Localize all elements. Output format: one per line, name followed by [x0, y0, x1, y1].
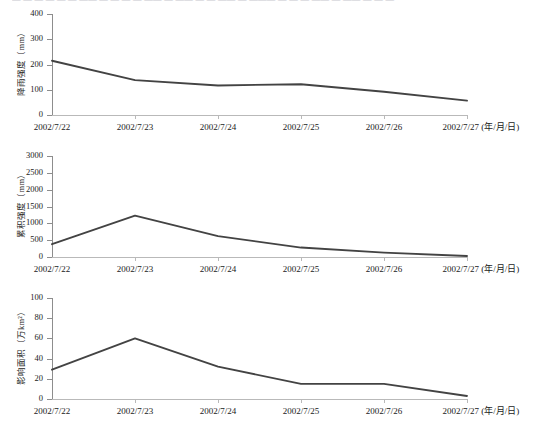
- y-axis-tick-label: 2500: [26, 167, 43, 178]
- y-axis-tick-label: 0: [39, 251, 43, 262]
- series-line: [52, 298, 467, 399]
- y-axis-title: 降雨强度（mm）: [13, 8, 27, 116]
- y-axis-tick: 2500: [47, 173, 52, 174]
- x-axis-tick: [135, 115, 136, 119]
- y-axis-tick: 1000: [47, 223, 52, 224]
- y-axis-tick: 2000: [47, 190, 52, 191]
- y-axis-tick: 80: [47, 318, 52, 319]
- y-axis-tick: 400: [47, 14, 52, 15]
- y-axis-tick: 0: [47, 399, 52, 400]
- y-axis-tick-label: 1000: [26, 217, 43, 228]
- x-axis-tick-label: 2002/7/26: [366, 121, 403, 133]
- y-axis-tick-label: 1500: [26, 201, 43, 212]
- x-axis-tick-label: 2002/7/26: [366, 263, 403, 275]
- x-axis-tick-label: 2002/7/22: [34, 263, 71, 275]
- x-axis-tick-label: 2002/7/24: [200, 121, 237, 133]
- y-axis-tick: 1500: [47, 207, 52, 208]
- x-axis-tick: [384, 115, 385, 119]
- y-axis-tick-label: 80: [35, 312, 44, 323]
- x-axis-tick-label: 2002/7/24: [200, 405, 237, 417]
- y-axis-tick-label: 200: [30, 59, 43, 70]
- x-axis-tick-label: 2002/7/25: [283, 405, 320, 417]
- y-axis-tick-label: 60: [35, 332, 44, 343]
- x-axis-tick: [301, 399, 302, 403]
- series-line: [52, 14, 467, 115]
- y-axis-tick-label: 100: [30, 292, 43, 303]
- series-path: [52, 216, 467, 256]
- figure-page: — — — — — — —— — — — — —— — —— — — —— — …: [0, 0, 543, 438]
- y-axis-tick: 200: [47, 65, 52, 66]
- plot-area: 0100200300400: [52, 14, 467, 115]
- y-axis-tick-label: 20: [35, 373, 44, 384]
- cropped-caption-text: — — — — — — —— — — — — —— — —— — — —— — …: [12, 0, 537, 4]
- chart-panel-affected-area: 影响面积（万km²） 020406080100 2002/7/222002/7/…: [0, 292, 543, 438]
- x-axis-line: [52, 115, 468, 116]
- x-axis-tick-label: 2002/7/26: [366, 405, 403, 417]
- y-axis-title-label: 降雨强度（mm）: [14, 28, 26, 97]
- x-axis-tick: [218, 115, 219, 119]
- y-axis-tick-label: 0: [39, 109, 43, 120]
- y-axis-tick: 100: [47, 90, 52, 91]
- y-axis-tick-label: 100: [30, 84, 43, 95]
- y-axis-tick-label: 0: [39, 393, 43, 404]
- x-axis-tick-label: 2002/7/27 (年/月/日): [442, 263, 519, 275]
- x-axis-tick: [218, 257, 219, 261]
- x-axis-tick: [467, 399, 468, 403]
- x-axis-tick: [218, 399, 219, 403]
- y-axis-tick-label: 400: [30, 8, 43, 19]
- plot-area: 020406080100: [52, 298, 467, 399]
- y-axis-title-label: 累积强度（mm）: [14, 170, 26, 239]
- y-axis-title: 影响面积（万km²）: [13, 292, 27, 400]
- y-axis-title: 累积强度（mm）: [13, 150, 27, 258]
- x-axis-tick: [467, 115, 468, 119]
- y-axis-tick-label: 3000: [26, 150, 43, 161]
- y-axis-tick: 60: [47, 338, 52, 339]
- x-axis-tick-label: 2002/7/22: [34, 121, 71, 133]
- x-axis-tick-label: 2002/7/22: [34, 405, 71, 417]
- y-axis-tick: 100: [47, 298, 52, 299]
- x-axis-line: [52, 257, 468, 258]
- x-axis-tick-label: 2002/7/24: [200, 263, 237, 275]
- y-axis-tick-label: 500: [30, 234, 43, 245]
- x-axis-tick-label: 2002/7/23: [117, 263, 154, 275]
- chart-panel-cumulative-intensity: 累积强度（mm） 050010001500200025003000 2002/7…: [0, 150, 543, 292]
- x-axis-tick-label: 2002/7/25: [283, 263, 320, 275]
- y-axis-tick: 300: [47, 39, 52, 40]
- chart-panel-rainfall-intensity: 降雨强度（mm） 0100200300400 2002/7/222002/7/2…: [0, 8, 543, 148]
- y-axis-tick-label: 2000: [26, 184, 43, 195]
- series-path: [52, 338, 467, 396]
- x-axis-tick-label: 2002/7/27 (年/月/日): [442, 121, 519, 133]
- y-axis-title-label: 影响面积（万km²）: [14, 307, 26, 385]
- series-path: [52, 61, 467, 101]
- x-axis-tick: [467, 257, 468, 261]
- x-axis-tick: [135, 399, 136, 403]
- x-axis-tick-label: 2002/7/25: [283, 121, 320, 133]
- y-axis-tick: 40: [47, 359, 52, 360]
- x-axis-tick: [301, 257, 302, 261]
- y-axis-tick: 20: [47, 379, 52, 380]
- x-axis-line: [52, 399, 468, 400]
- series-line: [52, 156, 467, 257]
- y-axis-tick-label: 40: [35, 353, 44, 364]
- y-axis-tick: 500: [47, 240, 52, 241]
- x-axis-tick: [301, 115, 302, 119]
- x-axis-tick-label: 2002/7/27 (年/月/日): [442, 405, 519, 417]
- x-axis-tick-label: 2002/7/23: [117, 405, 154, 417]
- plot-area: 050010001500200025003000: [52, 156, 467, 257]
- x-axis-tick: [384, 399, 385, 403]
- y-axis-tick: 0: [47, 257, 52, 258]
- y-axis-tick: 0: [47, 115, 52, 116]
- y-axis-tick: 3000: [47, 156, 52, 157]
- y-axis-tick-label: 300: [30, 33, 43, 44]
- x-axis-tick: [135, 257, 136, 261]
- x-axis-tick-label: 2002/7/23: [117, 121, 154, 133]
- x-axis-tick: [384, 257, 385, 261]
